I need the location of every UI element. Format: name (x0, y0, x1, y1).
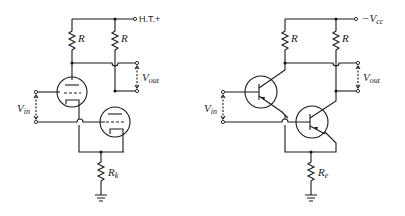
vcc-label: −Vcc (362, 12, 384, 26)
resistor-r2 (112, 19, 118, 91)
resistor-r1 (69, 19, 75, 63)
vin-label-l: Vin (17, 102, 30, 116)
resistor-r4 (333, 19, 339, 91)
ground-icon (305, 195, 317, 201)
vout-label-l: Vout (142, 71, 160, 85)
resistor-re (308, 152, 314, 195)
resistor-rk (98, 152, 104, 195)
re-label: Re (317, 166, 329, 180)
resistor-r3 (282, 19, 288, 63)
ht-label: H.T.+ (139, 14, 160, 24)
r2-label: R (120, 32, 128, 44)
tube-circuit: H.T.+ R R Vout Vin (17, 14, 160, 201)
r3-label: R (290, 32, 298, 44)
triode-1 (57, 77, 87, 107)
ht-terminal (133, 17, 136, 20)
r1-label: R (77, 32, 85, 44)
circuit-diagrams: H.T.+ R R Vout Vin (0, 0, 405, 216)
r4-label: R (341, 32, 349, 44)
vout-label-r: Vout (363, 71, 381, 85)
transistor-circuit: −Vcc R R Vout Vin (204, 12, 384, 201)
vin-label-r: Vin (204, 102, 217, 116)
rk-label: Rk (107, 166, 119, 180)
ground-icon (95, 195, 107, 201)
